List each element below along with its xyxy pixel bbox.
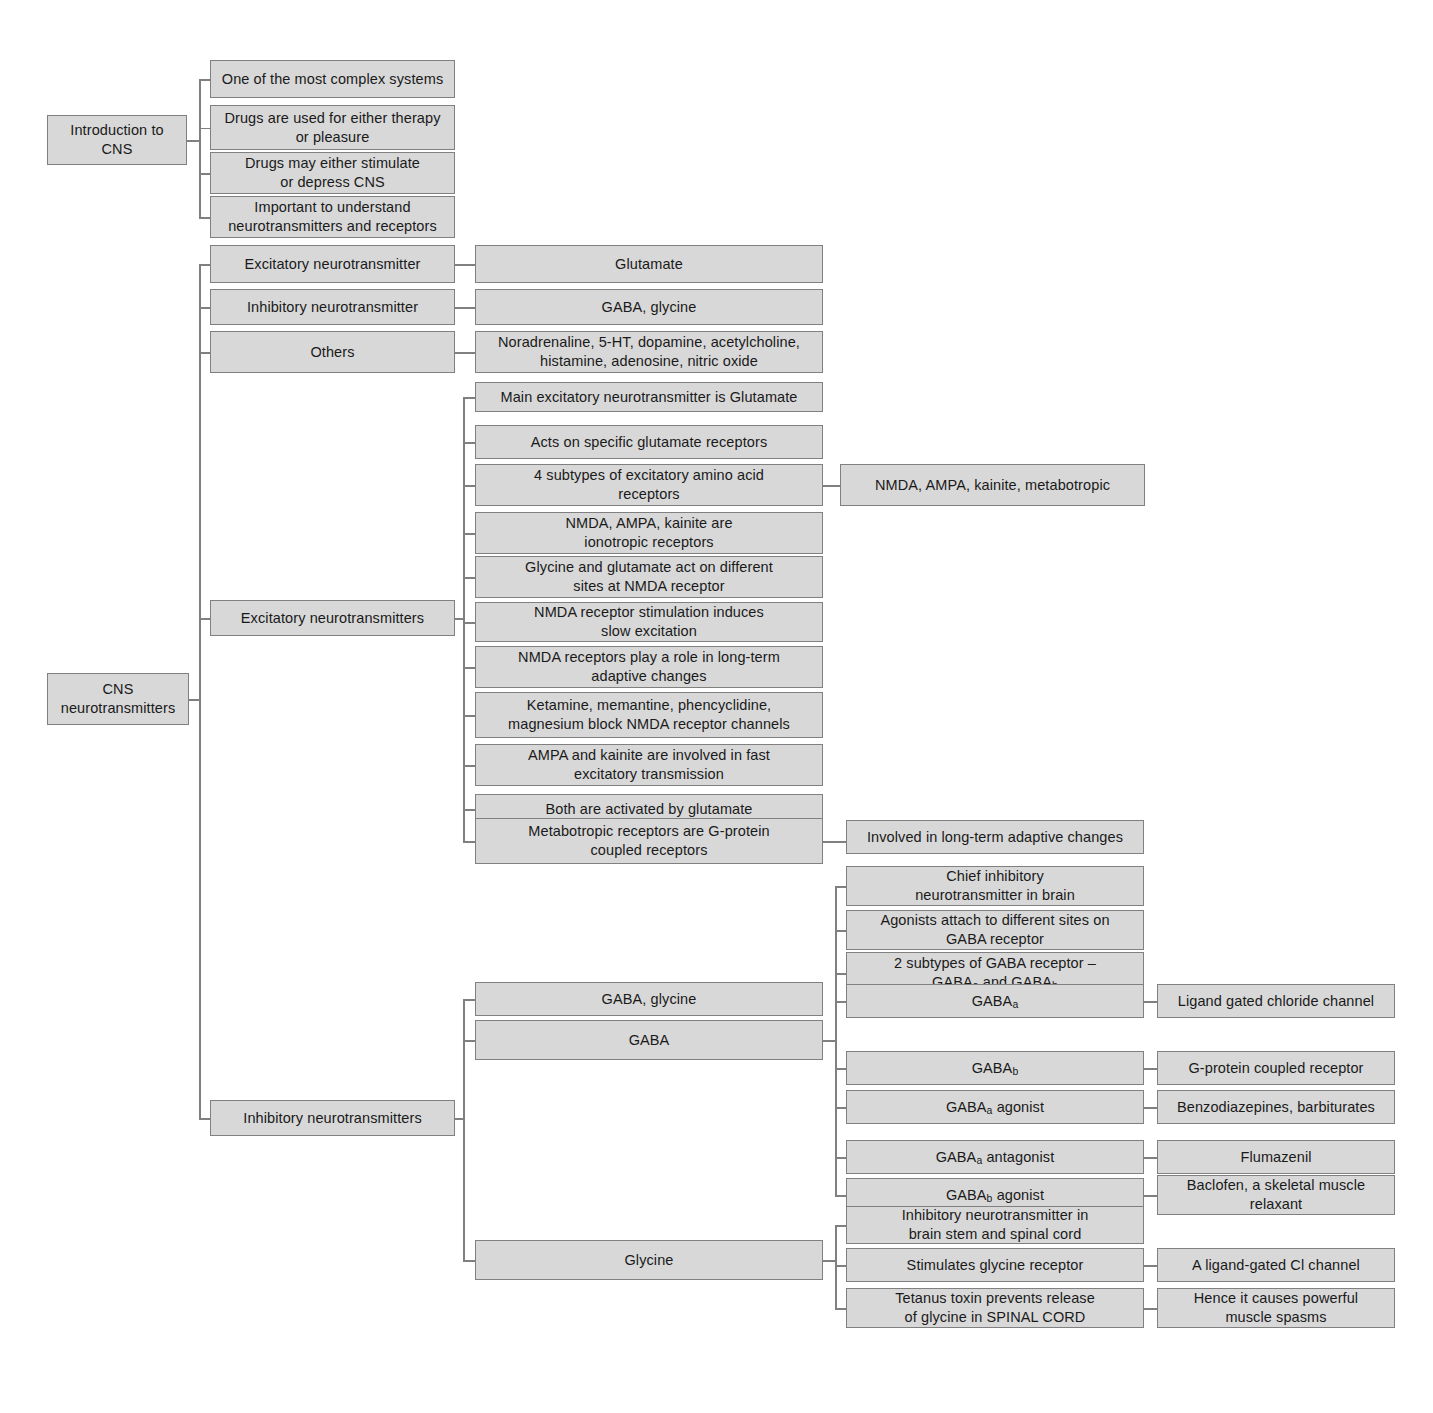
gaba-detail-6-label: Flumazenil: [1164, 1148, 1388, 1167]
gaba-branch-0: [835, 886, 846, 888]
gaba-item-3[interactable]: GABAa: [846, 984, 1144, 1018]
overview-detail-2-label: Noradrenaline, 5-HT, dopamine, acetylcho…: [482, 333, 816, 370]
glycine-item-0[interactable]: Inhibitory neurotransmitter inbrain stem…: [846, 1206, 1144, 1244]
excitatory-item-1[interactable]: Acts on specific glutamate receptors: [475, 425, 823, 459]
inhibitory-branch-2: [463, 1260, 475, 1262]
glycine-detail-1-label: A ligand-gated Cl channel: [1164, 1256, 1388, 1275]
gaba-item-3-label: GABAa: [853, 992, 1137, 1011]
intro-child-3[interactable]: Important to understandneurotransmitters…: [210, 196, 455, 238]
excitatory-label-label: Excitatory neurotransmitters: [217, 609, 448, 628]
gaba-item-6-label: GABAa antagonist: [853, 1148, 1137, 1167]
overview-label-2-label: Others: [217, 343, 448, 362]
gaba-detail-4-label: G-protein coupled receptor: [1164, 1059, 1388, 1078]
excitatory-detail-10[interactable]: Involved in long-term adaptive changes: [846, 820, 1144, 854]
overview-detail-2[interactable]: Noradrenaline, 5-HT, dopamine, acetylcho…: [475, 331, 823, 373]
overview-label-2[interactable]: Others: [210, 331, 455, 373]
inhibitory-branch-0: [463, 999, 475, 1001]
excitatory-label-stem: [455, 618, 465, 620]
cns-root-stem: [189, 699, 201, 701]
intro-root[interactable]: Introduction toCNS: [47, 115, 187, 165]
intro-branch-2: [199, 173, 210, 175]
overview-label-0-label: Excitatory neurotransmitter: [217, 255, 448, 274]
gaba-detail-link-3: [1144, 1001, 1157, 1003]
gaba-item-6[interactable]: GABAa antagonist: [846, 1140, 1144, 1174]
inhibitory-summary[interactable]: GABA, glycine: [475, 982, 823, 1016]
overview-detail-0[interactable]: Glutamate: [475, 245, 823, 283]
excitatory-item-3-label: NMDA, AMPA, kainite areionotropic recept…: [482, 514, 816, 551]
intro-branch-0: [199, 79, 210, 81]
glycine-item-1[interactable]: Stimulates glycine receptor: [846, 1248, 1144, 1282]
intro-child-0-label: One of the most complex systems: [217, 70, 448, 89]
gaba-item-7-label: GABAb agonist: [853, 1186, 1137, 1205]
excitatory-item-0[interactable]: Main excitatory neurotransmitter is Glut…: [475, 382, 823, 412]
glycine-detail-1[interactable]: A ligand-gated Cl channel: [1157, 1248, 1395, 1282]
gaba-branch-2: [835, 973, 846, 975]
gaba-detail-3[interactable]: Ligand gated chloride channel: [1157, 984, 1395, 1018]
excitatory-item-6-label: NMDA receptors play a role in long-terma…: [482, 648, 816, 685]
mindmap-canvas: One of the most complex systemsDrugs are…: [0, 0, 1433, 1413]
intro-child-1[interactable]: Drugs are used for either therapyor plea…: [210, 105, 455, 150]
excitatory-branch-10: [463, 841, 475, 843]
gaba-detail-4[interactable]: G-protein coupled receptor: [1157, 1051, 1395, 1085]
overview-link-2: [455, 352, 475, 354]
excitatory-detail-link-10: [823, 841, 846, 843]
cns-branch-2: [199, 352, 210, 354]
gaba-detail-7[interactable]: Baclofen, a skeletal musclerelaxant: [1157, 1175, 1395, 1215]
cns-branch-3: [199, 618, 210, 620]
excitatory-item-8[interactable]: AMPA and kainite are involved in fastexc…: [475, 744, 823, 786]
excitatory-item-9-label: Both are activated by glutamate: [482, 800, 816, 819]
gaba-branch-6: [835, 1157, 846, 1159]
excitatory-label[interactable]: Excitatory neurotransmitters: [210, 600, 455, 636]
overview-label-1[interactable]: Inhibitory neurotransmitter: [210, 289, 455, 325]
gaba-item-4[interactable]: GABAb: [846, 1051, 1144, 1085]
gaba-item-5-label: GABAa agonist: [853, 1098, 1137, 1117]
overview-detail-1[interactable]: GABA, glycine: [475, 289, 823, 325]
glycine-detail-2[interactable]: Hence it causes powerfulmuscle spasms: [1157, 1288, 1395, 1328]
inhibitory-branch-1: [463, 1040, 475, 1042]
glycine-label[interactable]: Glycine: [475, 1240, 823, 1280]
excitatory-item-5[interactable]: NMDA receptor stimulation inducesslow ex…: [475, 602, 823, 642]
intro-root-stem: [187, 140, 201, 142]
overview-label-0[interactable]: Excitatory neurotransmitter: [210, 245, 455, 283]
gaba-label[interactable]: GABA: [475, 1020, 823, 1060]
glycine-item-2[interactable]: Tetanus toxin prevents releaseof glycine…: [846, 1288, 1144, 1328]
excitatory-item-5-label: NMDA receptor stimulation inducesslow ex…: [482, 603, 816, 640]
excitatory-item-3[interactable]: NMDA, AMPA, kainite areionotropic recept…: [475, 512, 823, 554]
intro-root-label: Introduction toCNS: [54, 121, 180, 158]
gaba-branch-7: [835, 1195, 846, 1197]
gaba-detail-3-label: Ligand gated chloride channel: [1164, 992, 1388, 1011]
gaba-item-1-label: Agonists attach to different sites onGAB…: [853, 911, 1137, 948]
excitatory-item-6[interactable]: NMDA receptors play a role in long-terma…: [475, 646, 823, 688]
gaba-item-1[interactable]: Agonists attach to different sites onGAB…: [846, 910, 1144, 950]
gaba-item-0-label: Chief inhibitoryneurotransmitter in brai…: [853, 867, 1137, 904]
gaba-detail-5[interactable]: Benzodiazepines, barbiturates: [1157, 1090, 1395, 1124]
gaba-item-5[interactable]: GABAa agonist: [846, 1090, 1144, 1124]
gaba-item-0[interactable]: Chief inhibitoryneurotransmitter in brai…: [846, 866, 1144, 906]
gaba-label-label: GABA: [482, 1031, 816, 1050]
excitatory-detail-10-label: Involved in long-term adaptive changes: [853, 828, 1137, 847]
intro-child-3-label: Important to understandneurotransmitters…: [217, 198, 448, 235]
excitatory-detail-2[interactable]: NMDA, AMPA, kainite, metabotropic: [840, 464, 1145, 506]
inhibitory-label[interactable]: Inhibitory neurotransmitters: [210, 1100, 455, 1136]
gaba-detail-6[interactable]: Flumazenil: [1157, 1140, 1395, 1174]
gaba-branch-5: [835, 1107, 846, 1109]
intro-child-2[interactable]: Drugs may either stimulateor depress CNS: [210, 152, 455, 194]
glycine-branch-0: [835, 1225, 846, 1227]
overview-detail-0-label: Glutamate: [482, 255, 816, 274]
cns-branch-0: [199, 264, 210, 266]
cns-root[interactable]: CNSneurotransmitters: [47, 673, 189, 725]
glycine-label-stem: [823, 1260, 837, 1262]
excitatory-item-0-label: Main excitatory neurotransmitter is Glut…: [482, 388, 816, 407]
intro-child-0[interactable]: One of the most complex systems: [210, 60, 455, 98]
overview-detail-1-label: GABA, glycine: [482, 298, 816, 317]
glycine-label-label: Glycine: [482, 1251, 816, 1270]
gaba-branch-3: [835, 1001, 846, 1003]
cns-branch-4: [199, 1118, 210, 1120]
excitatory-item-2[interactable]: 4 subtypes of excitatory amino acidrecep…: [475, 464, 823, 506]
gaba-detail-link-7: [1144, 1195, 1157, 1197]
excitatory-item-7[interactable]: Ketamine, memantine, phencyclidine,magne…: [475, 692, 823, 738]
excitatory-branch-5: [463, 622, 475, 624]
excitatory-item-4[interactable]: Glycine and glutamate act on differentsi…: [475, 556, 823, 598]
glycine-detail-link-2: [1144, 1308, 1157, 1310]
excitatory-item-10[interactable]: Metabotropic receptors are G-proteincoup…: [475, 818, 823, 864]
